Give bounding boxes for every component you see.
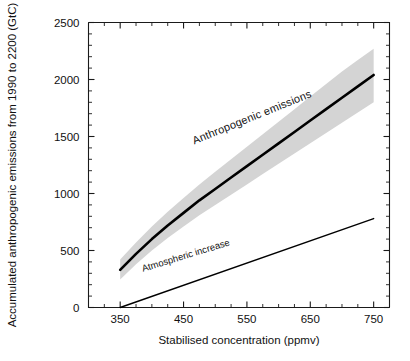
x-axis-title: Stabilised concentration (ppmv) [158,334,319,346]
x-tick-label: 550 [237,313,256,325]
x-tick-label: 750 [364,313,383,325]
y-tick-label: 1000 [54,188,80,200]
y-axis-title: Accumulated anthropogenic emissions from… [6,2,18,327]
x-tick-label: 450 [174,313,193,325]
y-tick-label: 2000 [54,74,80,86]
y-tick-label: 2500 [54,17,80,29]
chart-figure: 35045055065075005001000150020002500Anthr… [0,0,410,361]
x-tick-label: 650 [301,313,320,325]
y-tick-label: 1500 [54,131,80,143]
y-tick-label: 500 [60,245,79,257]
uncertainty-band [120,49,373,280]
chart-canvas: 35045055065075005001000150020002500Anthr… [0,0,410,361]
y-tick-label: 0 [73,302,79,314]
x-tick-label: 350 [111,313,130,325]
